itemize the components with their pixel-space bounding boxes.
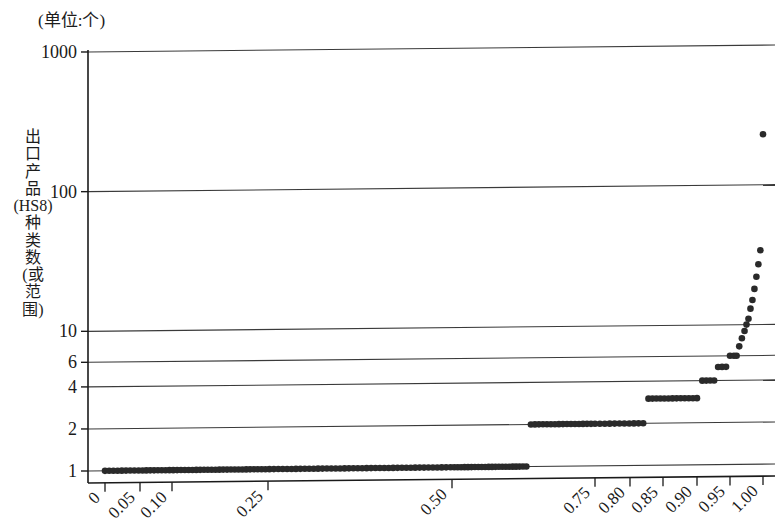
xtick-label-0.90: 0.90 — [661, 482, 695, 516]
data-point — [640, 420, 647, 427]
xtick-label-0.50: 0.50 — [416, 485, 450, 519]
xtick-label-0.75: 0.75 — [559, 483, 593, 517]
xtick-label-1.00: 1.00 — [727, 482, 761, 516]
data-point — [751, 286, 758, 293]
data-point — [523, 463, 530, 470]
data-point — [747, 305, 754, 312]
data-point — [743, 321, 750, 328]
data-point — [745, 316, 752, 323]
data-point — [733, 352, 740, 359]
data-point — [753, 273, 760, 280]
ytick-label-1: 1 — [68, 461, 77, 481]
xtick-label-0.80: 0.80 — [594, 483, 628, 517]
xtick-label-0: 0 — [84, 488, 103, 507]
gridline-y-10 — [88, 324, 775, 331]
gridline-y-2 — [88, 422, 775, 429]
ytick-label-10: 10 — [59, 321, 77, 341]
xtick-label-0.10: 0.10 — [136, 488, 170, 522]
data-point — [741, 328, 748, 335]
export-variety-scatter-figure: (单位:个) 出 口 产 品 (HS8) 种 类 数 (或 范 围) 12461… — [0, 0, 782, 528]
data-point — [694, 395, 701, 402]
data-point — [749, 297, 756, 304]
data-point — [723, 364, 730, 371]
data-point — [755, 261, 762, 268]
gridline-y-4 — [88, 380, 775, 387]
ytick-label-4: 4 — [68, 377, 77, 397]
ytick-label-6: 6 — [68, 352, 77, 372]
data-point — [711, 377, 718, 384]
data-point — [739, 335, 746, 342]
xtick-label-0.25: 0.25 — [232, 487, 266, 521]
x-axis-line — [88, 476, 775, 483]
xtick-label-0.05: 0.05 — [104, 488, 138, 522]
gridline-y-6 — [88, 355, 775, 362]
plot-area: 124610100100000.050.100.250.500.750.800.… — [0, 0, 782, 528]
ytick-label-1000: 1000 — [41, 42, 77, 62]
gridline-y-100 — [88, 185, 775, 192]
data-point — [760, 131, 767, 138]
data-point — [757, 247, 764, 254]
data-point — [736, 343, 743, 350]
xtick-label-0.85: 0.85 — [627, 483, 661, 517]
gridline-y-1000 — [88, 45, 775, 52]
ytick-label-100: 100 — [50, 182, 77, 202]
xtick-label-0.95: 0.95 — [694, 482, 728, 516]
ytick-label-2: 2 — [68, 419, 77, 439]
